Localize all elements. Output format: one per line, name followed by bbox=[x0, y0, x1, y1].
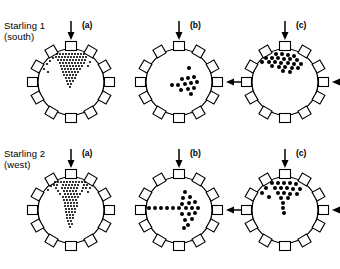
perch-s bbox=[174, 242, 185, 251]
arrow-top-r2-a bbox=[68, 149, 75, 168]
perch-nne bbox=[298, 173, 311, 186]
cage-circle-r1-a bbox=[38, 49, 104, 115]
perch-wsw bbox=[139, 219, 152, 232]
arrow-top-r2-b bbox=[176, 149, 183, 168]
perch-ring-r1-a bbox=[28, 42, 115, 123]
perch-n bbox=[174, 170, 185, 179]
perch-w bbox=[28, 78, 38, 87]
perch-ene bbox=[98, 188, 111, 201]
perch-e bbox=[319, 206, 329, 215]
perch-wnw bbox=[31, 188, 44, 201]
perch-nne bbox=[84, 173, 97, 186]
perch-wnw bbox=[139, 188, 152, 201]
activity-dots-r2-a bbox=[47, 181, 91, 228]
perch-ssw bbox=[259, 234, 272, 247]
perch-ese bbox=[98, 91, 111, 104]
perch-ese bbox=[206, 91, 219, 104]
perch-wsw bbox=[245, 91, 258, 104]
perch-w bbox=[242, 78, 252, 87]
perch-nne bbox=[192, 45, 205, 58]
activity-dots-r1-a bbox=[43, 53, 91, 88]
perch-nnw bbox=[153, 173, 166, 186]
perch-ene bbox=[312, 60, 325, 73]
activity-dots-r1-b bbox=[170, 66, 199, 96]
perch-ese bbox=[206, 219, 219, 232]
arrow-top-r1-a bbox=[68, 21, 75, 40]
perch-wsw bbox=[31, 219, 44, 232]
perch-ene bbox=[206, 188, 219, 201]
perch-ring-r1-c bbox=[242, 42, 329, 123]
perch-n bbox=[66, 42, 77, 51]
perch-ring-r1-b bbox=[136, 42, 223, 123]
cage-circle-r2-a bbox=[38, 177, 104, 243]
perch-wnw bbox=[245, 188, 258, 201]
perch-wnw bbox=[31, 60, 44, 73]
cage-r1-c bbox=[242, 21, 340, 123]
arrow-right-r2-c bbox=[332, 207, 340, 214]
perch-nnw bbox=[259, 173, 272, 186]
perch-e bbox=[105, 206, 115, 215]
perch-ssw bbox=[259, 106, 272, 119]
perch-s bbox=[174, 114, 185, 123]
arrow-right-r1-c bbox=[332, 79, 340, 86]
arrow-top-r1-c bbox=[282, 21, 289, 40]
perch-ene bbox=[98, 60, 111, 73]
perch-nne bbox=[192, 173, 205, 186]
perch-w bbox=[28, 206, 38, 215]
perch-wsw bbox=[139, 91, 152, 104]
perch-n bbox=[280, 170, 291, 179]
perch-w bbox=[242, 206, 252, 215]
perch-sse bbox=[84, 234, 97, 247]
perch-e bbox=[213, 78, 223, 87]
perch-ese bbox=[312, 91, 325, 104]
perch-sse bbox=[192, 234, 205, 247]
perch-nnw bbox=[153, 45, 166, 58]
perch-wnw bbox=[245, 60, 258, 73]
perch-sse bbox=[298, 234, 311, 247]
cage-circle-r1-b bbox=[146, 49, 212, 115]
perch-n bbox=[174, 42, 185, 51]
perch-n bbox=[66, 170, 77, 179]
cage-circle-r2-c bbox=[252, 177, 318, 243]
perch-e bbox=[105, 78, 115, 87]
perch-ssw bbox=[153, 234, 166, 247]
perch-e bbox=[213, 206, 223, 215]
cage-r2-a bbox=[28, 149, 115, 251]
perch-w bbox=[136, 206, 146, 215]
perch-ssw bbox=[45, 234, 58, 247]
perch-ese bbox=[98, 219, 111, 232]
perch-nne bbox=[298, 45, 311, 58]
perch-ssw bbox=[45, 106, 58, 119]
perch-ene bbox=[312, 188, 325, 201]
perch-nnw bbox=[45, 173, 58, 186]
perch-ring-r2-a bbox=[28, 170, 115, 251]
cage-r1-a bbox=[28, 21, 115, 123]
perch-ene bbox=[206, 60, 219, 73]
activity-dots-r2-b bbox=[147, 190, 200, 230]
perch-s bbox=[66, 114, 77, 123]
perch-n bbox=[280, 42, 291, 51]
cage-r1-b bbox=[136, 21, 244, 123]
perch-w bbox=[136, 78, 146, 87]
cage-r2-b bbox=[136, 149, 244, 251]
cage-r2-c bbox=[242, 149, 340, 251]
arrow-right-r1-b bbox=[226, 79, 243, 86]
perch-s bbox=[280, 242, 291, 251]
perch-nnw bbox=[259, 45, 272, 58]
perch-sse bbox=[84, 106, 97, 119]
cages-canvas bbox=[0, 0, 340, 269]
perch-e bbox=[319, 78, 329, 87]
perch-wsw bbox=[31, 91, 44, 104]
perch-s bbox=[280, 114, 291, 123]
arrow-top-r2-c bbox=[282, 149, 289, 168]
perch-wsw bbox=[245, 219, 258, 232]
perch-ssw bbox=[153, 106, 166, 119]
activity-dots-r2-c bbox=[260, 181, 302, 215]
arrow-right-r2-b bbox=[226, 207, 243, 214]
perch-ese bbox=[312, 219, 325, 232]
perch-wnw bbox=[139, 60, 152, 73]
arrow-top-r1-b bbox=[176, 21, 183, 40]
orientation-cage-figure: Starling 1(south) Starling 2(west) (a) (… bbox=[0, 0, 340, 269]
perch-sse bbox=[192, 106, 205, 119]
perch-s bbox=[66, 242, 77, 251]
